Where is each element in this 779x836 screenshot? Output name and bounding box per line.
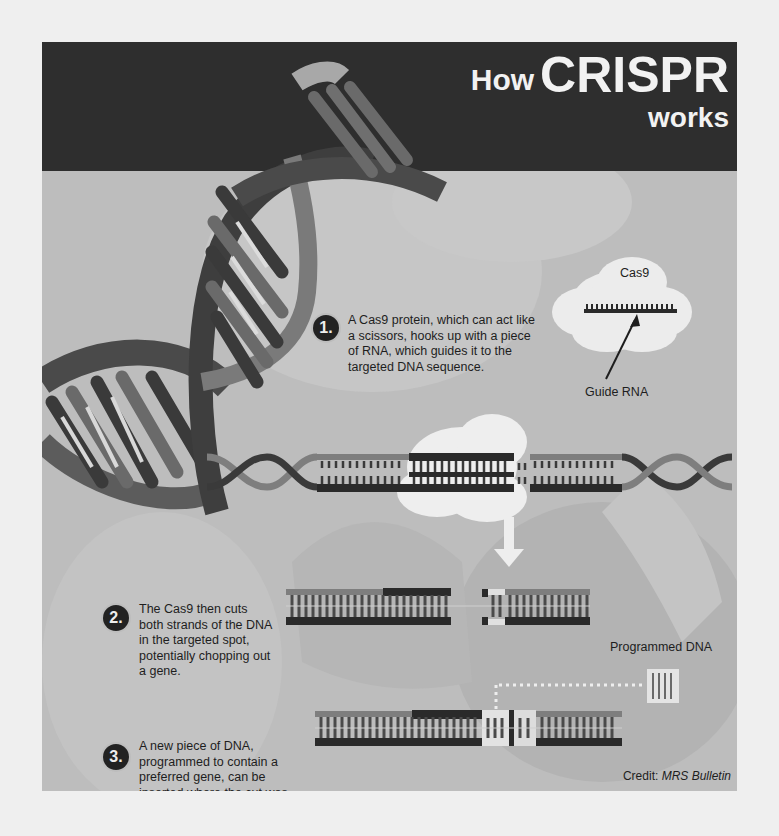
dna-insert-diagram [42,42,737,791]
credit-source: MRS Bulletin [662,769,731,783]
infographic-panel: HowCRISPR works Cas9 Guide RNA 1. [42,42,737,791]
credit-line: Credit: MRS Bulletin [623,769,731,783]
